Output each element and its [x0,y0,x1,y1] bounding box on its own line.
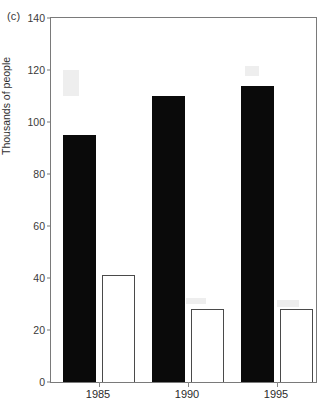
y-tick-label: 20 [33,324,45,336]
y-tick-mark [47,330,52,331]
bar-filled [152,96,185,382]
y-tick-label: 100 [27,116,45,128]
y-tick-label: 40 [33,272,45,284]
y-tick-mark [47,226,52,227]
y-tick-label: 120 [27,64,45,76]
y-tick-mark [47,174,52,175]
y-tick-label: 0 [39,376,45,388]
x-tick-mark [277,382,278,387]
y-tick-mark [47,278,52,279]
y-tick-mark [47,382,52,383]
bar-filled [63,135,96,382]
y-tick-mark [47,122,52,123]
x-tick-mark [99,382,100,387]
x-tick-label: 1995 [264,388,288,400]
bar-open [280,309,313,382]
bar-filled [241,86,274,382]
bar-open [191,309,224,382]
bar-open [102,275,135,382]
y-axis-title: Thousands of people [0,15,12,155]
x-tick-label: 1990 [175,388,199,400]
x-tick-label: 1985 [86,388,110,400]
plot-area: 020406080100120140 [50,17,317,383]
x-tick-mark [188,382,189,387]
y-tick-label: 80 [33,168,45,180]
figure-panel-c: (c) Thousands of people 0204060801001201… [0,0,326,411]
y-tick-mark [47,18,52,19]
y-tick-mark [47,70,52,71]
y-tick-label: 140 [27,12,45,24]
y-tick-label: 60 [33,220,45,232]
